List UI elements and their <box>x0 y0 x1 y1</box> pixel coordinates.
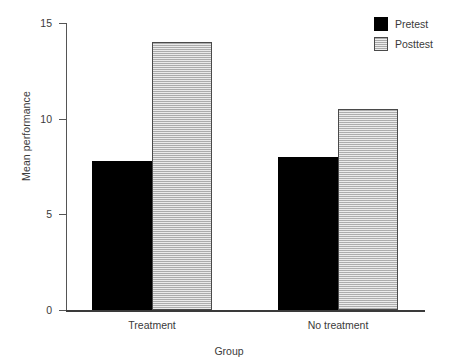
x-axis-line <box>66 310 425 312</box>
x-axis-label: Group <box>0 345 458 357</box>
y-tick-mark-10 <box>59 119 66 120</box>
legend-swatch-pretest-icon <box>374 17 388 31</box>
y-tick-mark-15 <box>59 23 66 24</box>
legend: Pretest Posttest <box>374 14 433 54</box>
legend-label-posttest: Posttest <box>395 38 433 50</box>
legend-label-pretest: Pretest <box>395 18 428 30</box>
x-category-label-treatment: Treatment <box>92 319 212 331</box>
x-category-label-no-treatment: No treatment <box>278 319 398 331</box>
y-tick-mark-5 <box>59 214 66 215</box>
bar-chart-figure: Mean performance 15 10 5 0 Treatment No … <box>0 0 458 363</box>
y-tick-label-0: 0 <box>12 305 52 315</box>
bar-treatment-posttest <box>152 42 212 310</box>
y-tick-label-5: 5 <box>12 209 52 219</box>
bar-treatment-pretest <box>92 161 152 310</box>
y-axis-line <box>66 23 67 311</box>
y-tick-label-15: 15 <box>12 18 52 28</box>
y-tick-mark-0 <box>59 310 66 311</box>
legend-item-posttest: Posttest <box>374 34 433 54</box>
legend-swatch-posttest-icon <box>374 37 388 51</box>
y-axis-label: Mean performance <box>20 66 32 206</box>
legend-item-pretest: Pretest <box>374 14 433 34</box>
y-tick-label-10: 10 <box>12 114 52 124</box>
bar-no-treatment-posttest <box>338 109 398 310</box>
bar-no-treatment-pretest <box>278 157 338 310</box>
